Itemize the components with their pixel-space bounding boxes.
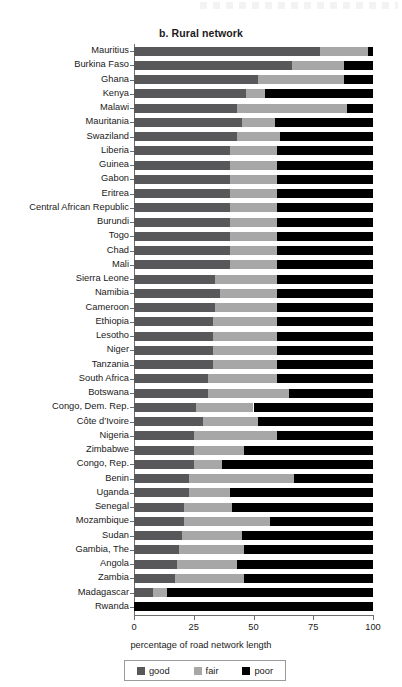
bar-segment-fair	[292, 61, 345, 70]
bar-segment-good	[134, 346, 213, 355]
bar-segment-fair	[237, 104, 347, 113]
bar-segment-poor	[277, 161, 373, 170]
bar-row	[134, 374, 373, 383]
bar-segment-fair	[230, 260, 278, 269]
y-tick	[130, 108, 134, 109]
bar-segment-fair	[194, 446, 244, 455]
bar-segment-good	[134, 89, 246, 98]
y-tick	[130, 422, 134, 423]
bar-segment-good	[134, 218, 230, 227]
legend: good fair poor	[124, 660, 286, 681]
x-tick	[134, 615, 135, 620]
bar-segment-good	[134, 332, 213, 341]
bar-segment-fair	[242, 118, 275, 127]
bar-row	[134, 560, 373, 569]
y-tick	[130, 407, 134, 408]
bar-segment-poor	[277, 175, 373, 184]
legend-label-fair: fair	[206, 666, 219, 676]
bar-segment-poor	[277, 431, 373, 440]
bar-segment-good	[134, 146, 230, 155]
y-tick	[130, 208, 134, 209]
y-tick	[130, 293, 134, 294]
x-axis-title: percentage of road network length	[0, 640, 402, 650]
y-label-congo-dem-rep: Congo, Dem. Rep.	[4, 401, 134, 411]
bar-row	[134, 303, 373, 312]
bar-segment-poor	[277, 189, 373, 198]
bar-segment-poor	[237, 560, 373, 569]
bar-segment-poor	[277, 360, 373, 369]
bar-segment-fair	[184, 503, 232, 512]
bar-row	[134, 346, 373, 355]
y-tick	[130, 308, 134, 309]
bar-segment-good	[134, 61, 292, 70]
y-tick	[130, 550, 134, 551]
bar-segment-good	[134, 389, 208, 398]
bar-segment-good	[134, 118, 242, 127]
legend-item-poor: poor	[242, 666, 273, 676]
y-label-swaziland: Swaziland	[4, 131, 134, 141]
bar-segment-poor	[258, 417, 373, 426]
bar-segment-fair	[184, 517, 270, 526]
bar-segment-poor	[244, 545, 373, 554]
x-tick	[254, 615, 255, 620]
bar-segment-fair	[196, 403, 253, 412]
y-label-benin: Benin	[4, 473, 134, 483]
bar-row	[134, 232, 373, 241]
y-tick	[130, 179, 134, 180]
y-tick	[130, 279, 134, 280]
bar-segment-poor	[277, 317, 373, 326]
legend-item-good: good	[137, 666, 170, 676]
bar-segment-poor	[242, 531, 373, 540]
bar-segment-fair	[208, 389, 289, 398]
y-label-gabon: Gabon	[4, 173, 134, 183]
bar-row	[134, 417, 373, 426]
bar-segment-good	[134, 488, 189, 497]
y-tick	[130, 436, 134, 437]
bar-segment-fair	[213, 332, 278, 341]
y-tick	[130, 464, 134, 465]
bar-segment-poor	[289, 389, 373, 398]
bar-segment-fair	[230, 232, 278, 241]
bar-segment-poor	[275, 118, 373, 127]
y-label-chad: Chad	[4, 245, 134, 255]
y-label-kenya: Kenya	[4, 88, 134, 98]
bar-segment-good	[134, 474, 189, 483]
bar-row	[134, 360, 373, 369]
bar-segment-good	[134, 303, 215, 312]
y-label-nigeria: Nigeria	[4, 430, 134, 440]
bar-row	[134, 545, 373, 554]
bar-segment-fair	[208, 374, 277, 383]
bar-row	[134, 332, 373, 341]
y-tick	[130, 536, 134, 537]
bar-segment-fair	[230, 203, 278, 212]
bar-row	[134, 389, 373, 398]
y-tick	[130, 251, 134, 252]
y-tick	[130, 479, 134, 480]
y-label-ghana: Ghana	[4, 74, 134, 84]
bar-segment-poor	[277, 146, 373, 155]
x-tick-label-75: 75	[293, 622, 333, 632]
bar-segment-good	[134, 317, 213, 326]
x-tick-label-25: 25	[174, 622, 214, 632]
y-label-uganda: Uganda	[4, 487, 134, 497]
y-label-rwanda: Rwanda	[4, 601, 134, 611]
y-label-senegal: Senegal	[4, 501, 134, 511]
y-tick	[130, 393, 134, 394]
bar-segment-good	[134, 545, 179, 554]
y-label-central-african-republic: Central African Republic	[4, 202, 134, 212]
y-label-sudan: Sudan	[4, 530, 134, 540]
bar-segment-good	[134, 460, 194, 469]
bar-segment-good	[134, 75, 258, 84]
bar-segment-good	[134, 275, 215, 284]
y-tick	[130, 336, 134, 337]
y-label-mali: Mali	[4, 259, 134, 269]
y-tick	[130, 222, 134, 223]
y-label-cameroon: Cameroon	[4, 302, 134, 312]
bar-segment-fair	[215, 275, 277, 284]
bar-row	[134, 175, 373, 184]
bar-segment-fair	[230, 246, 278, 255]
y-tick	[130, 379, 134, 380]
bar-row	[134, 246, 373, 255]
y-label-lesotho: Lesotho	[4, 330, 134, 340]
bar-segment-poor	[232, 503, 373, 512]
